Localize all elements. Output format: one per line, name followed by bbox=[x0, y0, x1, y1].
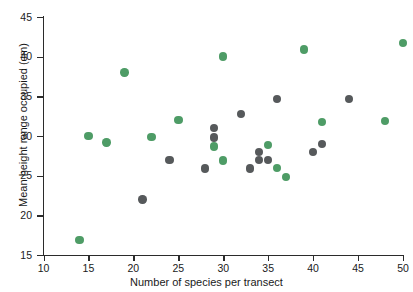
scatter-point-gray bbox=[165, 156, 173, 164]
x-axis-tick-label: 40 bbox=[296, 263, 330, 274]
scatter-point-green bbox=[102, 138, 110, 146]
x-axis-tick bbox=[268, 255, 269, 261]
x-axis-tick-label: 25 bbox=[161, 263, 195, 274]
x-axis-tick bbox=[178, 255, 179, 261]
scatter-point-green bbox=[147, 133, 155, 141]
x-axis-title: Number of species per transect bbox=[0, 276, 413, 288]
x-axis-tick bbox=[358, 255, 359, 261]
x-axis-tick bbox=[313, 255, 314, 261]
scatter-point-green bbox=[300, 45, 308, 53]
y-axis-tick bbox=[37, 136, 44, 137]
scatter-point-green bbox=[75, 236, 83, 244]
y-axis-tick bbox=[37, 215, 44, 216]
x-axis-tick-label: 15 bbox=[71, 263, 105, 274]
x-axis-tick-label: 10 bbox=[27, 263, 61, 274]
x-axis-tick-label: 50 bbox=[386, 263, 413, 274]
x-axis-tick bbox=[133, 255, 134, 261]
scatter-point-green bbox=[84, 132, 92, 140]
scatter-point-green bbox=[399, 39, 407, 47]
scatter-point-gray bbox=[345, 95, 353, 103]
scatter-chart: 15202530354045 101520253035404550 Number… bbox=[0, 0, 413, 292]
y-axis-tick-label: 15 bbox=[2, 250, 32, 261]
y-axis-tick bbox=[37, 57, 44, 58]
scatter-point-green bbox=[174, 116, 182, 124]
scatter-point-gray bbox=[138, 195, 146, 203]
y-axis-tick bbox=[37, 96, 44, 97]
y-axis-title: Mean height range occupied (cm) bbox=[17, 10, 29, 240]
x-axis-tick-label: 20 bbox=[116, 263, 150, 274]
x-axis-tick-label: 35 bbox=[251, 263, 285, 274]
x-axis-tick bbox=[403, 255, 404, 261]
x-axis-tick bbox=[223, 255, 224, 261]
x-axis-tick-label: 45 bbox=[341, 263, 375, 274]
x-axis-tick bbox=[88, 255, 89, 261]
scatter-point-green bbox=[120, 68, 128, 76]
x-axis-tick-label: 30 bbox=[206, 263, 240, 274]
scatter-point-gray bbox=[246, 164, 254, 172]
y-axis-tick bbox=[37, 176, 44, 177]
scatter-point-green bbox=[210, 142, 218, 150]
x-axis-tick bbox=[44, 255, 45, 261]
y-axis-tick bbox=[37, 17, 44, 18]
